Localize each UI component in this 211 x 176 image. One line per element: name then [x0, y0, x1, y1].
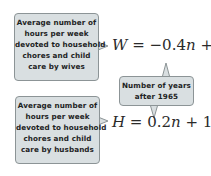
callout-line: Average number of	[15, 17, 98, 28]
callout-line: Average number of	[16, 100, 99, 111]
equation-constant: + 12.	[181, 113, 211, 131]
wives-hours-callout: Average number of hours per week devoted…	[14, 13, 99, 81]
equation-variable-n: n	[171, 113, 181, 131]
equation-coefficient: = 0.2	[125, 113, 171, 131]
wives-equation: W = −0.4n + 39	[112, 36, 211, 54]
callout-line: hours per week	[15, 28, 98, 39]
equation-variable-w: W	[112, 36, 127, 54]
years-after-1965-callout: Number of years after 1965	[119, 76, 194, 106]
callout-line: after 1965	[120, 91, 193, 102]
callout-line: devoted to household	[15, 39, 98, 50]
callout-line: chores and child	[15, 50, 98, 61]
callout-line: care by wives	[15, 61, 98, 72]
callout-line: devoted to household	[16, 122, 99, 133]
equation-variable-n: n	[186, 36, 196, 54]
callout-line: chores and child	[16, 133, 99, 144]
callout-line: Number of years	[120, 80, 193, 91]
husbands-equation: H = 0.2n + 12.	[112, 113, 211, 131]
husbands-hours-callout: Average number of hours per week devoted…	[15, 96, 100, 164]
equation-coefficient: = −0.4	[127, 36, 186, 54]
callout-line: hours per week	[16, 111, 99, 122]
callout-line: care by husbands	[16, 144, 99, 155]
equation-variable-h: H	[112, 113, 125, 131]
equation-constant: + 39	[196, 36, 211, 54]
